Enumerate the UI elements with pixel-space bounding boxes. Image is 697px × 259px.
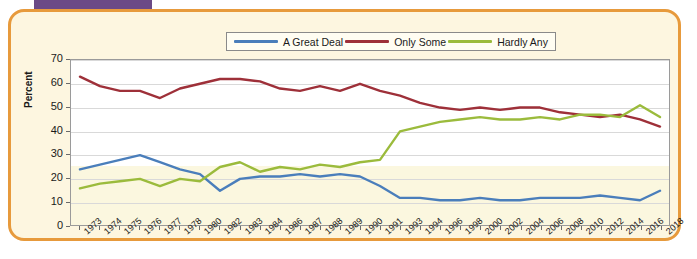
x-axis-tick-mark bbox=[260, 226, 261, 230]
chart-legend: A Great DealOnly SomeHardly Any bbox=[226, 32, 556, 51]
y-axis-tick-label: 30 bbox=[29, 147, 63, 159]
line-series-only-some bbox=[80, 77, 660, 127]
x-axis-tick-mark bbox=[601, 226, 602, 230]
x-axis-tick-mark bbox=[521, 226, 522, 230]
x-axis-tick-mark bbox=[280, 226, 281, 230]
y-axis-tick-label: 60 bbox=[29, 76, 63, 88]
x-axis-tick-mark bbox=[621, 226, 622, 230]
x-axis-tick-mark bbox=[641, 226, 642, 230]
x-axis-tick-mark bbox=[99, 226, 100, 230]
x-axis-tick-mark bbox=[440, 226, 441, 230]
y-axis-tick-label: 40 bbox=[29, 124, 63, 136]
x-axis-tick-mark bbox=[240, 226, 241, 230]
y-axis-tick-mark bbox=[66, 226, 70, 227]
legend-item-label: Only Some bbox=[394, 36, 446, 48]
series-lines bbox=[71, 60, 669, 226]
x-axis-tick-mark bbox=[480, 226, 481, 230]
y-axis-tick-label: 50 bbox=[29, 100, 63, 112]
x-axis-tick-mark bbox=[500, 226, 501, 230]
y-axis-tick-label: 20 bbox=[29, 171, 63, 183]
x-axis-tick-mark bbox=[541, 226, 542, 230]
x-axis-tick-mark bbox=[300, 226, 301, 230]
x-axis-tick-mark bbox=[561, 226, 562, 230]
y-axis-tick-label: 70 bbox=[29, 52, 63, 64]
purple-header-bar bbox=[34, 0, 152, 9]
y-axis-tick-label: 10 bbox=[29, 195, 63, 207]
x-axis-tick-mark bbox=[219, 226, 220, 230]
x-axis-tick-mark bbox=[360, 226, 361, 230]
x-axis-tick-mark bbox=[380, 226, 381, 230]
legend-swatch-icon bbox=[234, 40, 278, 43]
x-axis-tick-mark bbox=[581, 226, 582, 230]
x-axis-tick-mark bbox=[199, 226, 200, 230]
x-axis-tick-mark bbox=[400, 226, 401, 230]
screenshot-root: A Great DealOnly SomeHardly Any Percent … bbox=[0, 0, 697, 259]
legend-item-hardly-any[interactable]: Hardly Any bbox=[448, 36, 548, 48]
legend-item-label: A Great Deal bbox=[283, 36, 343, 48]
legend-item-a-great-deal[interactable]: A Great Deal bbox=[234, 36, 343, 48]
x-axis-tick-mark bbox=[661, 226, 662, 230]
legend-swatch-icon bbox=[448, 40, 492, 43]
x-axis-tick-mark bbox=[340, 226, 341, 230]
x-axis-tick-mark bbox=[139, 226, 140, 230]
chart-card: A Great DealOnly SomeHardly Any Percent … bbox=[8, 9, 681, 241]
legend-item-only-some[interactable]: Only Some bbox=[345, 36, 446, 48]
y-axis-tick-label: 0 bbox=[29, 219, 63, 231]
x-axis-tick-mark bbox=[79, 226, 80, 230]
x-axis-tick-mark bbox=[460, 226, 461, 230]
x-axis-tick-mark bbox=[159, 226, 160, 230]
x-axis-tick-mark bbox=[420, 226, 421, 230]
line-series-hardly-any bbox=[80, 105, 660, 188]
plot-area bbox=[70, 59, 670, 226]
x-axis-tick-mark bbox=[119, 226, 120, 230]
legend-item-label: Hardly Any bbox=[497, 36, 548, 48]
x-axis-tick-mark bbox=[179, 226, 180, 230]
legend-swatch-icon bbox=[345, 40, 389, 43]
x-axis-tick-mark bbox=[320, 226, 321, 230]
